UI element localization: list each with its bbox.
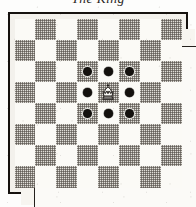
- board-square-d3[interactable]: [77, 124, 98, 145]
- board-square-b5[interactable]: [35, 82, 56, 103]
- board-square-f8[interactable]: [119, 19, 140, 40]
- board-square-d8[interactable]: [77, 19, 98, 40]
- board-square-f4[interactable]: [119, 103, 140, 124]
- board-square-a5[interactable]: [15, 82, 36, 103]
- board-square-b3[interactable]: [35, 124, 56, 145]
- board-square-d4[interactable]: [77, 103, 98, 124]
- board-square-a2[interactable]: [15, 145, 36, 166]
- board-square-c1[interactable]: [56, 166, 77, 187]
- board-square-a6[interactable]: [15, 61, 36, 82]
- legal-move-dot: [104, 67, 113, 76]
- board-square-b6[interactable]: [35, 61, 56, 82]
- board-square-h8[interactable]: [161, 19, 182, 40]
- board-square-c5[interactable]: [56, 82, 77, 103]
- board-square-b1[interactable]: [35, 166, 56, 187]
- board-square-e7[interactable]: [98, 40, 119, 61]
- board-square-g8[interactable]: [140, 19, 161, 40]
- board-square-a4[interactable]: [15, 103, 36, 124]
- board-square-g3[interactable]: [140, 124, 161, 145]
- board-square-h7[interactable]: [161, 40, 182, 61]
- board-square-g1[interactable]: [140, 166, 161, 187]
- legal-move-dot: [83, 67, 92, 76]
- board-square-c2[interactable]: [56, 145, 77, 166]
- board-square-e5[interactable]: [98, 82, 119, 103]
- board-square-h3[interactable]: [161, 124, 182, 145]
- board-square-d2[interactable]: [77, 145, 98, 166]
- board-square-e1[interactable]: [98, 166, 119, 187]
- board-square-g2[interactable]: [140, 145, 161, 166]
- board-square-b4[interactable]: [35, 103, 56, 124]
- board-square-a8[interactable]: [15, 19, 36, 40]
- board-square-f6[interactable]: [119, 61, 140, 82]
- chessboard: [15, 19, 182, 188]
- board-square-e4[interactable]: [98, 103, 119, 124]
- legal-move-dot: [125, 109, 134, 118]
- board-square-h5[interactable]: [161, 82, 182, 103]
- board-square-e6[interactable]: [98, 61, 119, 82]
- board-square-f7[interactable]: [119, 40, 140, 61]
- board-square-d1[interactable]: [77, 166, 98, 187]
- board-square-b8[interactable]: [35, 19, 56, 40]
- board-square-c6[interactable]: [56, 61, 77, 82]
- board-square-c3[interactable]: [56, 124, 77, 145]
- board-square-d7[interactable]: [77, 40, 98, 61]
- board-square-c4[interactable]: [56, 103, 77, 124]
- board-square-f5[interactable]: [119, 82, 140, 103]
- board-square-f2[interactable]: [119, 145, 140, 166]
- board-square-e3[interactable]: [98, 124, 119, 145]
- board-square-e2[interactable]: [98, 145, 119, 166]
- white-king-icon[interactable]: [99, 83, 117, 101]
- legal-move-dot: [125, 88, 134, 97]
- figure-caption: The King: [0, 0, 196, 9]
- board-square-e8[interactable]: [98, 19, 119, 40]
- board-square-a1[interactable]: [15, 166, 36, 187]
- board-square-b2[interactable]: [35, 145, 56, 166]
- board-square-d6[interactable]: [77, 61, 98, 82]
- board-square-h4[interactable]: [161, 103, 182, 124]
- board-square-d5[interactable]: [77, 82, 98, 103]
- board-square-c7[interactable]: [56, 40, 77, 61]
- chess-diagram-figure: The King: [0, 0, 196, 207]
- board-square-a3[interactable]: [15, 124, 36, 145]
- board-square-f3[interactable]: [119, 124, 140, 145]
- legal-move-dot: [125, 67, 134, 76]
- board-square-g7[interactable]: [140, 40, 161, 61]
- legal-move-dot: [83, 88, 92, 97]
- board-square-g5[interactable]: [140, 82, 161, 103]
- board-square-c8[interactable]: [56, 19, 77, 40]
- legal-move-dot: [104, 109, 113, 118]
- board-square-a7[interactable]: [15, 40, 36, 61]
- legal-move-dot: [83, 109, 92, 118]
- board-square-h1[interactable]: [161, 166, 182, 187]
- board-square-b7[interactable]: [35, 40, 56, 61]
- board-square-h6[interactable]: [161, 61, 182, 82]
- board-square-g6[interactable]: [140, 61, 161, 82]
- board-square-h2[interactable]: [161, 145, 182, 166]
- board-square-f1[interactable]: [119, 166, 140, 187]
- board-square-g4[interactable]: [140, 103, 161, 124]
